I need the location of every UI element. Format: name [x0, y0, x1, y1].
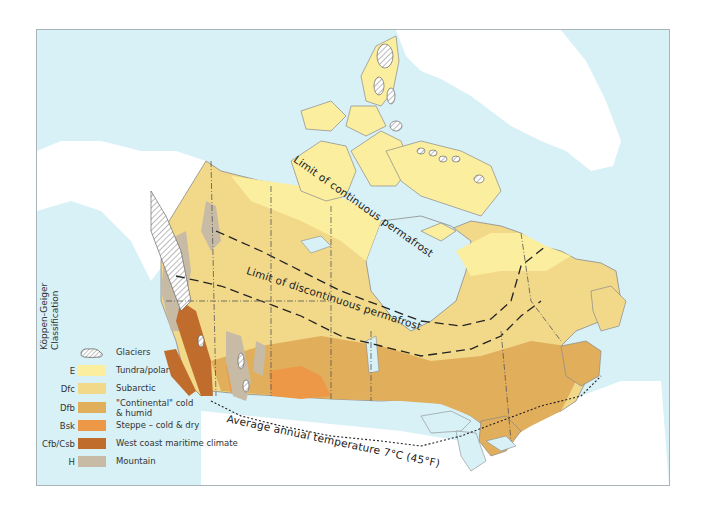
glacier-icon — [78, 347, 106, 358]
legend-title-line1: Köppen-Geiger — [39, 283, 49, 350]
legend-swatch — [78, 402, 106, 413]
legend-label: Tundra/polar — [116, 365, 169, 375]
legend-label: Mountain — [116, 456, 156, 466]
legend-label: Steppe – cold & dry — [116, 420, 199, 430]
legend-code: Bsk — [40, 421, 75, 431]
legend-label: "Continental" cold — [116, 398, 193, 408]
legend-swatch — [78, 438, 106, 449]
legend-label: Subarctic — [116, 383, 156, 393]
legend-swatch — [78, 456, 106, 467]
legend-code: E — [40, 366, 75, 376]
legend-label-line2: & humid — [116, 408, 152, 418]
legend-code: Dfb — [40, 403, 75, 413]
legend-label: Glaciers — [116, 347, 150, 357]
legend-code: Dfc — [40, 384, 75, 394]
legend-code: H — [40, 457, 75, 467]
legend-swatch — [78, 420, 106, 431]
legend-swatch — [78, 365, 106, 376]
legend-title: Köppen-Geiger Classification — [39, 262, 99, 352]
newfoundland — [591, 286, 626, 331]
legend-code: Cfb/Csb — [40, 439, 75, 449]
legend-label: West coast maritime climate — [116, 438, 238, 448]
legend-swatch — [78, 383, 106, 394]
legend-title-line2: Classification — [50, 290, 60, 350]
